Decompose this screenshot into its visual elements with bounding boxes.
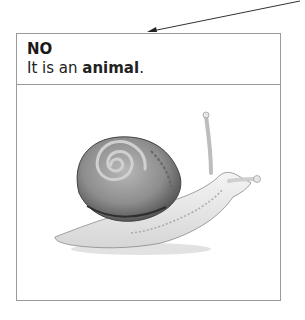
answer-card: NO It is an animal. xyxy=(16,33,281,301)
verdict-label: NO xyxy=(27,40,270,58)
card-header: NO It is an animal. xyxy=(17,34,280,85)
explanation-keyword: animal xyxy=(82,59,139,77)
explanation-text: It is an animal. xyxy=(27,58,270,78)
snail-illustration xyxy=(17,85,280,300)
